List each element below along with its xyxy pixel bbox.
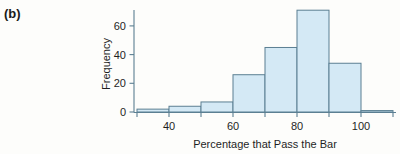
y-tick-label: 60 [114, 20, 126, 32]
x-axis-ticks [137, 113, 393, 118]
x-axis-tick-labels: 40 60 80 100 [163, 120, 370, 132]
x-tick-label: 100 [352, 120, 370, 132]
x-axis-title: Percentage that Pass the Bar [193, 138, 337, 150]
histogram-bar [169, 106, 201, 112]
histogram-bar [297, 10, 329, 112]
y-axis-title: Frequency [100, 38, 112, 90]
y-tick-label: 0 [120, 106, 126, 118]
histogram-bar [201, 102, 233, 112]
figure-panel: (b) 0 20 40 60 [0, 0, 400, 154]
histogram-bar [361, 111, 393, 112]
y-axis-tick-labels: 0 20 40 60 [114, 20, 126, 118]
y-tick-label: 20 [114, 77, 126, 89]
histogram-bar [329, 63, 361, 112]
histogram-bar [233, 75, 265, 112]
y-tick-label: 40 [114, 49, 126, 61]
histogram-bar [137, 109, 169, 112]
x-tick-label: 60 [227, 120, 239, 132]
histogram-bar [265, 47, 297, 112]
y-axis-ticks [130, 26, 135, 112]
x-tick-label: 80 [291, 120, 303, 132]
x-tick-label: 40 [163, 120, 175, 132]
histogram-bars [137, 10, 393, 112]
histogram-chart: 0 20 40 60 40 60 80 100 Percentage that … [0, 0, 400, 154]
